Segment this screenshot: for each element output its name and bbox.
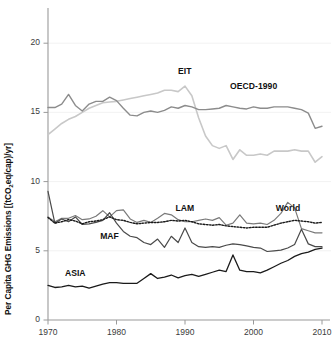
y-axis-title-sub: 2 [7,184,14,187]
x-tick-label: 2010 [302,327,333,337]
series-line-asia [48,248,322,288]
y-tick-label: 20 [14,37,40,47]
y-axis-title-pre: Per Capita GHG Emissions [(tCO [3,188,13,315]
x-tick-label: 1990 [165,327,205,337]
y-axis-title-post: eq/cap)/yr] [3,143,13,184]
chart-plot-area [0,0,333,345]
y-tick-label: 15 [14,106,40,116]
series-label-asia: ASIA [65,268,86,278]
series-label-lam: LAM [176,203,195,213]
series-label-oecd-1990: OECD-1990 [230,81,277,91]
y-tick-label: 10 [14,176,40,186]
axis-ticks [44,43,323,324]
series-label-maf: MAF [100,231,119,241]
x-tick-label: 1980 [97,327,137,337]
series-line-oecd-1990 [48,94,322,128]
data-series-group [48,86,322,288]
y-axis-title: Per Capita GHG Emissions [(tCO2eq/cap)/y… [3,143,13,315]
y-tick-label: 0 [14,314,40,324]
axis-lines [48,8,330,320]
y-tick-label: 5 [14,245,40,255]
series-label-eit: EIT [178,66,192,76]
series-label-world: World [276,203,300,213]
x-tick-label: 1970 [28,327,68,337]
chart-figure: Per Capita GHG Emissions [(tCO2eq/cap)/y… [0,0,333,345]
x-tick-label: 2000 [234,327,274,337]
series-line-eit [48,86,322,162]
